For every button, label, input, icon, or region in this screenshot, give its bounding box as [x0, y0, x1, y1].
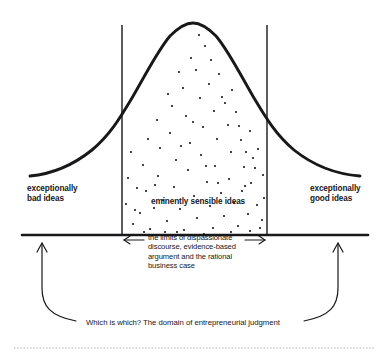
left-caption-pointer	[37, 243, 76, 321]
right-caption-pointer	[304, 243, 343, 321]
label-exceptionally-good-ideas: exceptionally good ideas	[310, 184, 361, 204]
bell-curve	[30, 23, 360, 176]
caption-entrepreneurial-judgment: Which is which? The domain of entreprene…	[86, 318, 280, 327]
annotation-limits-of-dispassionate-discourse: the limits of dispassionate discourse, e…	[148, 233, 260, 271]
label-exceptionally-bad-ideas: exceptionally bad ideas	[27, 184, 78, 204]
bell-curve-diagram	[0, 0, 388, 358]
label-eminently-sensible-ideas: eminently sensible ideas	[151, 197, 245, 207]
